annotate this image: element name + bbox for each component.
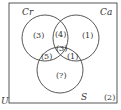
s-only-count: (?): [56, 71, 67, 80]
universe-label: U: [1, 96, 9, 106]
set-ca-label: Ca: [100, 7, 112, 17]
set-s-label: S: [81, 92, 87, 102]
all-three-count: (3): [56, 44, 67, 53]
set-cr-label: Cr: [22, 7, 34, 17]
venn-diagram: Cr Ca S U (3) (1) (4) (3) (5) (1) (?) (2…: [0, 0, 121, 110]
cr-only-count: (3): [33, 31, 44, 40]
universe-count: (2): [104, 93, 115, 102]
ca-s-count: (1): [67, 52, 78, 61]
cr-s-count: (5): [41, 52, 52, 61]
ca-only-count: (1): [82, 31, 93, 40]
cr-ca-count: (4): [55, 30, 66, 39]
